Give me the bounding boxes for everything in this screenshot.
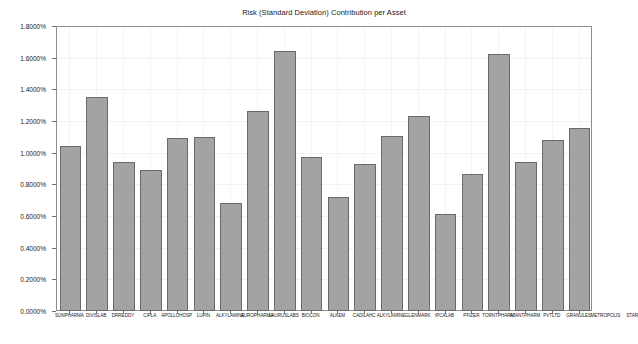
x-tick-mark xyxy=(579,311,580,314)
x-tick-mark xyxy=(445,311,446,314)
plot-area xyxy=(57,27,591,311)
bar[interactable] xyxy=(140,170,161,311)
y-tick-label: 1.0000% xyxy=(20,149,46,156)
chart-title: Risk (Standard Deviation) Contribution p… xyxy=(56,8,592,17)
gridline-horizontal xyxy=(57,184,591,185)
gridline-horizontal xyxy=(57,153,591,154)
gridline-horizontal xyxy=(57,279,591,280)
bar[interactable] xyxy=(301,157,322,311)
y-tick-label: 0.4000% xyxy=(20,244,46,251)
x-tick-mark xyxy=(257,311,258,314)
x-tick-mark xyxy=(391,311,392,314)
bar[interactable] xyxy=(488,54,509,311)
x-tick-mark xyxy=(150,311,151,314)
x-tick-mark xyxy=(96,311,97,314)
x-tick-mark xyxy=(69,311,70,314)
bar[interactable] xyxy=(462,174,483,311)
bar[interactable] xyxy=(542,140,563,311)
y-tick-label: 0.2000% xyxy=(20,276,46,283)
x-tick-mark xyxy=(177,311,178,314)
gridline-horizontal xyxy=(57,248,591,249)
bar[interactable] xyxy=(247,111,268,311)
y-tick-mark xyxy=(52,311,56,312)
bar[interactable] xyxy=(113,162,134,311)
bar[interactable] xyxy=(354,164,375,311)
x-tick-mark xyxy=(284,311,285,314)
y-tick-label: 1.6000% xyxy=(20,54,46,61)
bar[interactable] xyxy=(515,162,536,311)
x-tick-label: STAR xyxy=(626,313,638,318)
x-tick-mark xyxy=(311,311,312,314)
y-tick-label: 0.0000% xyxy=(20,308,46,315)
x-axis: SUNPHARMADIVISLABDRREDDYCIPLAAPOLLOHOSPL… xyxy=(56,313,592,329)
bar[interactable] xyxy=(435,214,456,311)
y-tick-label: 1.2000% xyxy=(20,118,46,125)
bar[interactable] xyxy=(408,116,429,311)
bar[interactable] xyxy=(220,203,241,311)
bar[interactable] xyxy=(274,51,295,311)
y-tick-label: 0.6000% xyxy=(20,213,46,220)
bar[interactable] xyxy=(86,97,107,311)
x-tick-mark xyxy=(123,311,124,314)
gridline-horizontal xyxy=(57,121,591,122)
x-tick-mark xyxy=(525,311,526,314)
y-axis: 0.0000%0.2000%0.4000%0.6000%0.8000%1.000… xyxy=(0,0,56,344)
x-tick-mark xyxy=(337,311,338,314)
gridline-horizontal xyxy=(57,89,591,90)
x-tick-mark xyxy=(418,311,419,314)
x-tick-mark xyxy=(471,311,472,314)
bar[interactable] xyxy=(381,136,402,311)
x-tick-mark xyxy=(552,311,553,314)
y-tick-label: 1.8000% xyxy=(20,23,46,30)
bar[interactable] xyxy=(60,146,81,311)
x-tick-mark xyxy=(230,311,231,314)
y-tick-label: 1.4000% xyxy=(20,86,46,93)
bar[interactable] xyxy=(328,197,349,311)
x-tick-mark xyxy=(203,311,204,314)
x-tick-mark xyxy=(364,311,365,314)
bar[interactable] xyxy=(194,137,215,311)
bar[interactable] xyxy=(167,138,188,311)
gridline-horizontal xyxy=(57,58,591,59)
x-tick-label: METROPOLIS xyxy=(591,313,621,318)
bar[interactable] xyxy=(569,128,590,311)
gridline-horizontal xyxy=(57,216,591,217)
y-tick-label: 0.8000% xyxy=(20,181,46,188)
x-tick-mark xyxy=(498,311,499,314)
